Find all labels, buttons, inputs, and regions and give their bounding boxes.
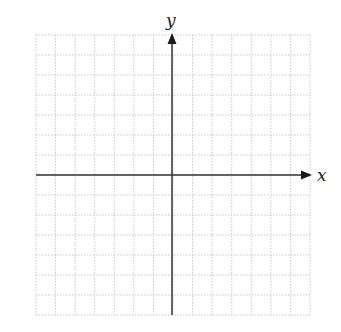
x-axis-label: x (317, 165, 327, 185)
y-axis-label: y (165, 10, 176, 30)
coordinate-plane: x y (0, 0, 341, 332)
x-axis-arrowhead-icon (301, 171, 312, 180)
